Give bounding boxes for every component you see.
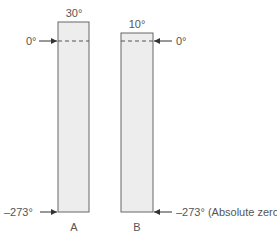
column-b: 10° 0° –273° (Absolute zero) B bbox=[121, 18, 277, 233]
temperature-scale-diagram: 30° 0° –273° A 10° 0° –273° (Absolute ze… bbox=[0, 0, 277, 244]
column-b-top-label: 10° bbox=[129, 18, 146, 30]
column-b-name: B bbox=[133, 221, 140, 233]
column-a-bar bbox=[58, 22, 89, 212]
column-a-name: A bbox=[70, 221, 78, 233]
column-b-bar bbox=[121, 33, 153, 212]
column-b-bottom-label: –273° (Absolute zero) bbox=[176, 206, 277, 218]
column-a-bottom-label: –273° bbox=[4, 206, 33, 218]
column-a-top-label: 30° bbox=[66, 7, 83, 19]
column-a-zero-label: 0° bbox=[26, 35, 37, 47]
column-a: 30° 0° –273° A bbox=[4, 7, 89, 233]
column-b-zero-label: 0° bbox=[176, 35, 187, 47]
